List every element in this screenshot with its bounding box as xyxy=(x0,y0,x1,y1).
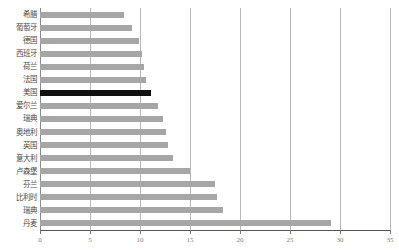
category-label: 希腊 xyxy=(23,10,37,19)
bar xyxy=(40,116,163,122)
chart-row: 比利时 xyxy=(40,191,390,204)
category-label: 瑞典 xyxy=(23,206,37,215)
tick-mark-20 xyxy=(240,230,241,234)
bar xyxy=(40,90,151,96)
tick-mark-25 xyxy=(290,230,291,234)
chart-row: 奥地利 xyxy=(40,126,390,139)
tick-mark-35 xyxy=(390,230,391,234)
chart-row: 爱尔兰 xyxy=(40,99,390,112)
chart-row: 德国 xyxy=(40,34,390,47)
chart-row: 意大利 xyxy=(40,152,390,165)
category-label: 德国 xyxy=(23,36,37,45)
chart-row: 丹麦 xyxy=(40,217,390,230)
category-label: 西班牙 xyxy=(16,49,37,58)
chart-row: 希腊 xyxy=(40,8,390,21)
plot-area: 希腊葡萄牙德国西班牙荷兰法国美国爱尔兰瑞典奥地利英国意大利卢森堡芬兰比利时瑞典丹… xyxy=(40,8,390,230)
x-tick-label: 20 xyxy=(230,236,250,245)
bar xyxy=(40,12,124,18)
chart-row: 芬兰 xyxy=(40,178,390,191)
chart-row: 荷兰 xyxy=(40,60,390,73)
bar xyxy=(40,168,190,174)
bar xyxy=(40,181,215,187)
chart-row: 瑞典 xyxy=(40,112,390,125)
category-label: 意大利 xyxy=(16,154,37,163)
category-label: 英国 xyxy=(23,141,37,150)
x-axis-line xyxy=(40,230,390,231)
x-tick-label: 30 xyxy=(330,236,350,245)
bar xyxy=(40,77,146,83)
x-tick-label: 35 xyxy=(380,236,399,245)
x-tick-label: 10 xyxy=(130,236,150,245)
gridline-35 xyxy=(390,8,391,230)
chart-row: 瑞典 xyxy=(40,204,390,217)
bar xyxy=(40,51,142,57)
bar xyxy=(40,38,139,44)
category-label: 奥地利 xyxy=(16,128,37,137)
category-label: 比利时 xyxy=(16,193,37,202)
tick-mark-15 xyxy=(190,230,191,234)
category-label: 葡萄牙 xyxy=(16,23,37,32)
bar xyxy=(40,207,223,213)
chart-row: 英国 xyxy=(40,139,390,152)
x-tick-label: 25 xyxy=(280,236,300,245)
category-label: 美国 xyxy=(23,88,37,97)
chart-row: 法国 xyxy=(40,73,390,86)
bars-layer: 希腊葡萄牙德国西班牙荷兰法国美国爱尔兰瑞典奥地利英国意大利卢森堡芬兰比利时瑞典丹… xyxy=(40,8,390,230)
x-tick-label: 0 xyxy=(30,236,50,245)
bar xyxy=(40,155,173,161)
chart-row: 卢森堡 xyxy=(40,165,390,178)
chart-row: 西班牙 xyxy=(40,47,390,60)
category-label: 卢森堡 xyxy=(16,167,37,176)
tick-mark-30 xyxy=(340,230,341,234)
bar xyxy=(40,129,166,135)
x-tick-label: 5 xyxy=(80,236,100,245)
category-label: 芬兰 xyxy=(23,180,37,189)
chart-row: 美国 xyxy=(40,86,390,99)
bar xyxy=(40,142,168,148)
x-tick-label: 15 xyxy=(180,236,200,245)
category-label: 荷兰 xyxy=(23,62,37,71)
bar-chart: 希腊葡萄牙德国西班牙荷兰法国美国爱尔兰瑞典奥地利英国意大利卢森堡芬兰比利时瑞典丹… xyxy=(0,0,399,251)
category-label: 法国 xyxy=(23,75,37,84)
bar xyxy=(40,194,217,200)
chart-row: 葡萄牙 xyxy=(40,21,390,34)
tick-mark-0 xyxy=(40,230,41,234)
bar xyxy=(40,220,331,226)
category-label: 丹麦 xyxy=(23,219,37,228)
category-label: 瑞典 xyxy=(23,114,37,123)
tick-mark-5 xyxy=(90,230,91,234)
bar xyxy=(40,25,132,31)
category-label: 爱尔兰 xyxy=(16,101,37,110)
bar xyxy=(40,64,144,70)
tick-mark-10 xyxy=(140,230,141,234)
bar xyxy=(40,103,158,109)
